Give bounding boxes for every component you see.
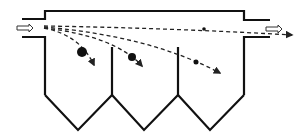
right-wall: [244, 37, 270, 95]
top-wall: [22, 11, 270, 20]
particles: [77, 27, 206, 64]
trajectory-fine: [44, 26, 292, 35]
left-wall: [22, 37, 45, 95]
trajectory-small: [44, 27, 220, 73]
inlet-arrow-icon: [17, 24, 33, 32]
particle-medium: [128, 53, 136, 61]
hopper-3: [178, 95, 244, 130]
particle-fine: [202, 27, 206, 31]
hopper-1: [45, 95, 112, 130]
trajectory-medium: [44, 28, 142, 66]
settling-chamber-diagram: [0, 0, 306, 139]
particle-small: [194, 60, 199, 65]
outlet-arrow-icon: [266, 25, 282, 33]
hopper-2: [112, 95, 178, 130]
particle-large: [77, 47, 87, 57]
trajectory-large: [44, 28, 94, 65]
